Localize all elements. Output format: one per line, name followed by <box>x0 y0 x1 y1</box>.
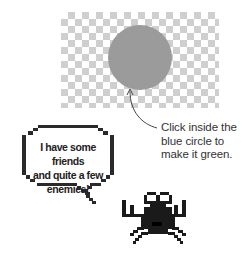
crab-monster-icon <box>0 0 242 263</box>
